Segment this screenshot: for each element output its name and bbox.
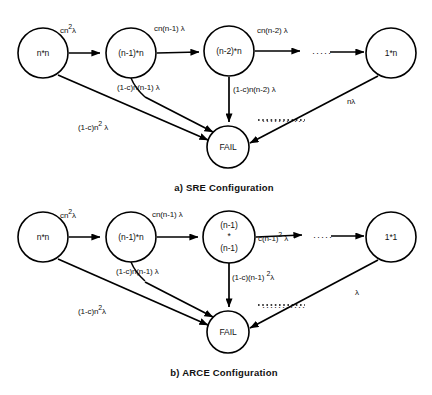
edge-rate-label: (1-c)n(n-1) λ bbox=[116, 268, 159, 276]
node-label: FAIL bbox=[219, 328, 236, 337]
edge-rate-label: cn(n-1) λ bbox=[152, 211, 183, 219]
ellipsis-dots: ··········· bbox=[262, 117, 306, 126]
edge-sre-1-to-2 bbox=[157, 52, 199, 53]
edge-rate-label: (1-c)n2λ bbox=[78, 308, 106, 316]
diagram-caption: b) ARCE Configuration bbox=[170, 368, 277, 378]
node-label: (n-2)*n bbox=[216, 47, 241, 56]
ellipsis-dots: ····· bbox=[312, 49, 332, 58]
node-label: 1*1 bbox=[385, 233, 397, 242]
diagram-caption: a) SRE Configuration bbox=[174, 183, 274, 193]
edge-rate-label: (1-c)(n-1) 2λ bbox=[232, 274, 274, 282]
ellipsis-dots: ··········· bbox=[262, 303, 306, 312]
edge-rate-label: cn2λ bbox=[60, 27, 76, 35]
edge-rate-label: λ bbox=[355, 289, 359, 297]
node-label: 1*n bbox=[385, 49, 397, 58]
node-label: (n-1)*n bbox=[118, 233, 143, 242]
node-label: FAIL bbox=[219, 143, 236, 152]
node-label: n*n bbox=[37, 233, 49, 242]
edge-rate-label: c(n-1)2 λ bbox=[258, 235, 288, 243]
node-label: (n-1)*n bbox=[118, 49, 143, 58]
node-label: n*n bbox=[37, 49, 49, 58]
node-label: (n-1)*(n-1) bbox=[220, 220, 237, 254]
edge-rate-label: (1-c)n2 λ bbox=[78, 124, 108, 132]
edge-rate-label: cn(n-1) λ bbox=[154, 25, 185, 33]
edge-rate-label: (1-c)n(n-2) λ bbox=[233, 86, 276, 94]
diagram-canvas bbox=[0, 0, 432, 395]
ellipsis-dots: ····· bbox=[313, 233, 333, 242]
edge-rate-label: cn2λ bbox=[60, 212, 76, 220]
edge-rate-label: (1-c)n(n-1) λ bbox=[117, 84, 160, 92]
edge-rate-label: nλ bbox=[347, 98, 355, 106]
edge-rate-label: cn(n-2) λ bbox=[257, 27, 288, 35]
